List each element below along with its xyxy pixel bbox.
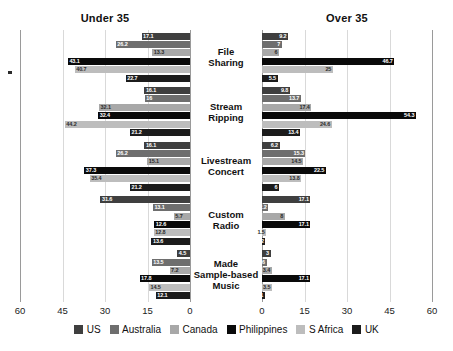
bar-row: 8 xyxy=(262,213,432,220)
bar-value-label: 25 xyxy=(325,65,331,73)
bar: 31.6 xyxy=(100,196,190,203)
bar: 43.1 xyxy=(68,58,190,65)
bar-value-label: 16.1 xyxy=(146,86,156,94)
panel-heading-under-35: Under 35 xyxy=(20,12,190,24)
bar-value-label: 17.1 xyxy=(299,195,309,203)
bar-row: 21.2 xyxy=(20,184,190,191)
bar: 13.4 xyxy=(262,129,300,136)
bar-value-label: 17.1 xyxy=(299,220,309,228)
bar-group: 6.215.314.522.513.86 xyxy=(262,142,432,191)
category-axis: File SharingStream RippingLivestream Con… xyxy=(190,30,262,302)
legend-swatch-icon xyxy=(296,325,305,334)
bar-row: 40.7 xyxy=(20,66,190,73)
category-label: Stream Ripping xyxy=(190,101,262,123)
bar-value-label: 6 xyxy=(275,48,278,56)
bar: 1.2 xyxy=(262,238,265,245)
bar-value-label: 32.1 xyxy=(101,103,111,111)
legend-label: Australia xyxy=(122,324,161,335)
bar-row: 44.2 xyxy=(20,121,190,128)
legend-swatch-icon xyxy=(74,325,83,334)
x-axis-ticks-over-35: 015304560 xyxy=(262,305,432,319)
legend-swatch-icon xyxy=(227,325,236,334)
bar: 13.1 xyxy=(153,204,190,211)
bar-value-label: 16 xyxy=(146,94,152,102)
bar: 5.7 xyxy=(174,213,190,220)
bar-group: 31.613.15.712.612.813.6 xyxy=(20,196,190,245)
bar: 17.8 xyxy=(140,275,190,282)
bar-group: 17.126.213.343.140.722.7 xyxy=(20,33,190,82)
bar-value-label: 13.3 xyxy=(154,48,164,56)
gridline xyxy=(432,30,433,302)
bar-value-label: 13.7 xyxy=(289,94,299,102)
bar-value-label: 13.6 xyxy=(153,237,163,245)
bar-row: 46.7 xyxy=(262,58,432,65)
bar-value-label: 17.1 xyxy=(143,32,153,40)
bar-row: 31.6 xyxy=(20,196,190,203)
bar: 6 xyxy=(262,49,279,56)
bar: 8 xyxy=(262,213,285,220)
x-axis-tick-label: 60 xyxy=(427,305,438,316)
bar: 44.2 xyxy=(65,121,190,128)
bar-row: 14.5 xyxy=(262,158,432,165)
bar: 9.2 xyxy=(262,33,288,40)
bar-value-label: 6 xyxy=(275,183,278,191)
bar-row: 17.1 xyxy=(20,33,190,40)
plot-area-under-35: 17.126.213.343.140.722.716.11632.132.444… xyxy=(20,30,190,302)
legend-item[interactable]: S Africa xyxy=(296,324,343,335)
category-label: File Sharing xyxy=(190,46,262,68)
x-axis-tick-label: 15 xyxy=(142,305,153,316)
bar-value-label: 9.2 xyxy=(279,32,286,40)
bar-row: 17.1 xyxy=(262,275,432,282)
bar-value-label: 13.1 xyxy=(154,203,164,211)
grouped-bar-chart: Under 35 Over 35 17.126.213.343.140.722.… xyxy=(0,0,453,351)
bar: 12.6 xyxy=(154,221,190,228)
bar-value-label: 14.5 xyxy=(291,157,301,165)
panel-heading-over-35: Over 35 xyxy=(262,12,432,24)
bar-value-label: 12.6 xyxy=(156,220,166,228)
bar-value-label: 22.7 xyxy=(127,74,137,82)
bar: 15.3 xyxy=(262,150,305,157)
bar: 16.1 xyxy=(144,87,190,94)
bar: 17.1 xyxy=(262,275,310,282)
legend-label: Philippines xyxy=(239,324,287,335)
bar-value-label: 13.4 xyxy=(288,128,298,136)
bar-value-label: 35.4 xyxy=(91,174,101,182)
bar-row: 12.8 xyxy=(20,229,190,236)
bar: 32.1 xyxy=(99,104,190,111)
legend-item[interactable]: Philippines xyxy=(227,324,288,335)
legend-item[interactable]: US xyxy=(74,324,100,335)
bar-row: 26.2 xyxy=(20,150,190,157)
bar-row: 21.2 xyxy=(20,129,190,136)
bar-value-label: 8 xyxy=(280,212,283,220)
bar-row: 17.1 xyxy=(262,221,432,228)
bar: 26.2 xyxy=(116,150,190,157)
bar-row: 5.7 xyxy=(20,213,190,220)
bar-value-label: 15.3 xyxy=(294,149,304,157)
bar: 24.6 xyxy=(262,121,332,128)
bar: 3.5 xyxy=(262,284,272,291)
bar-value-label: 5.7 xyxy=(175,212,182,220)
bar-value-label: 37.3 xyxy=(86,166,96,174)
bar-row: 54.3 xyxy=(262,112,432,119)
bar: 15.1 xyxy=(147,158,190,165)
legend-item[interactable]: Canada xyxy=(170,324,218,335)
bar-row: 13.6 xyxy=(20,238,190,245)
bar-value-label: 17.1 xyxy=(299,274,309,282)
legend-label: US xyxy=(87,324,101,335)
bar: 13.6 xyxy=(151,238,190,245)
bar-row: 9.8 xyxy=(262,87,432,94)
bar-value-label: 46.7 xyxy=(383,57,393,65)
bar-row: 35.4 xyxy=(20,175,190,182)
legend: USAustraliaCanadaPhilippinesS AfricaUK xyxy=(0,324,453,335)
bar: 9.8 xyxy=(262,87,290,94)
legend-item[interactable]: UK xyxy=(352,324,378,335)
bar-row: 13.5 xyxy=(20,259,190,266)
bar-value-label: 22.5 xyxy=(314,166,324,174)
bar-group: 16.11632.132.444.221.2 xyxy=(20,87,190,136)
bar-row: 17.4 xyxy=(262,104,432,111)
legend-item[interactable]: Australia xyxy=(110,324,161,335)
x-axis-tick-label: 45 xyxy=(57,305,68,316)
x-axis-tick-label: 45 xyxy=(384,305,395,316)
bar-row: 9.2 xyxy=(262,33,432,40)
bar-row: 24.6 xyxy=(262,121,432,128)
